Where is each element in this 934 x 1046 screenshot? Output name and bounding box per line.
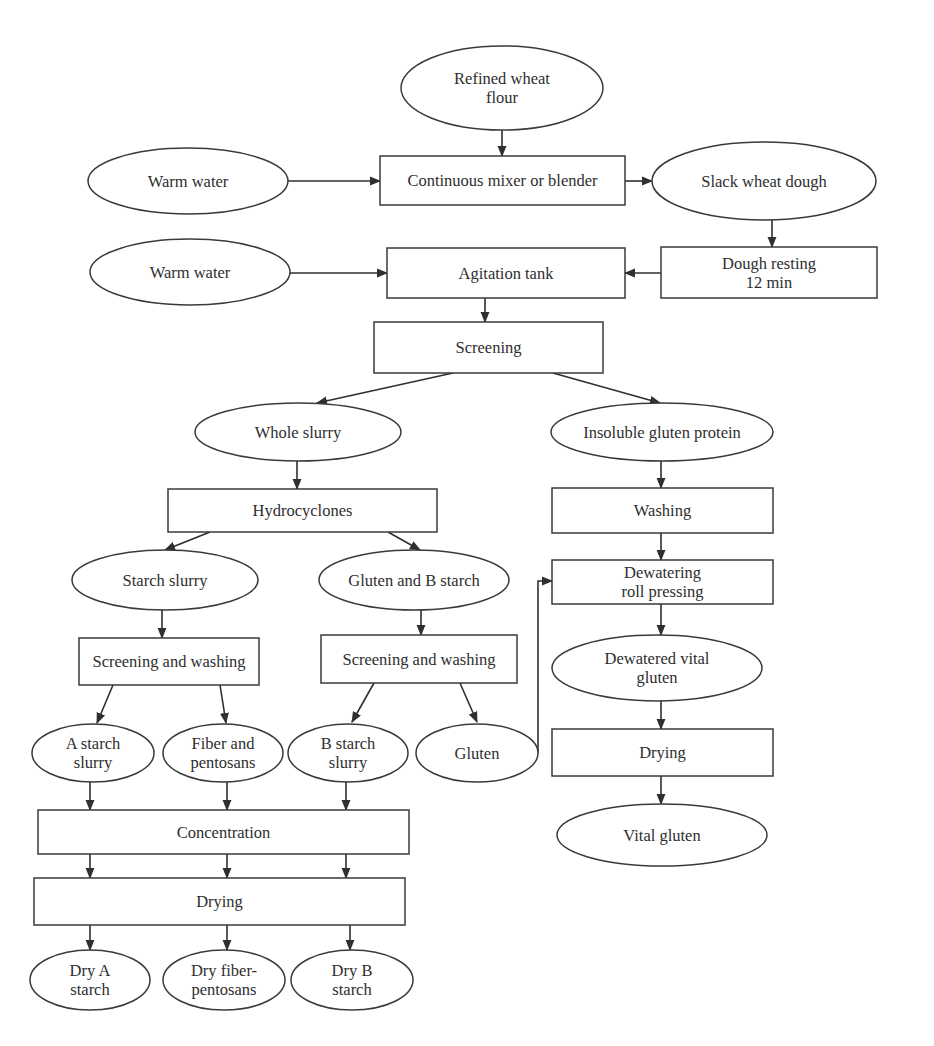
- arrow-sw-right-to-b-starch-slurry: [352, 683, 374, 722]
- node-label: pentosans: [191, 980, 256, 999]
- node-label: B starch: [321, 734, 376, 753]
- node-label: flour: [486, 88, 519, 107]
- node-label: gluten: [636, 668, 677, 687]
- node-label: Refined wheat: [454, 69, 550, 88]
- node-label: Whole slurry: [255, 423, 342, 442]
- node-label: Agitation tank: [459, 264, 555, 283]
- node-label: Washing: [634, 501, 691, 520]
- node-mixer: Continuous mixer or blender: [380, 156, 625, 205]
- arrow-hydrocyclones-to-starch-slurry: [165, 532, 210, 550]
- node-gluten: Gluten: [416, 724, 538, 782]
- node-label: Starch slurry: [123, 571, 209, 590]
- node-sw-left: Screening and washing: [79, 638, 259, 685]
- node-label: Drying: [639, 743, 686, 762]
- node-label: Dewatered vital: [605, 649, 710, 668]
- node-label: roll pressing: [621, 582, 703, 601]
- arrow-sw-left-to-fiber-pentosans: [220, 685, 226, 723]
- node-label: Dewatering: [624, 563, 701, 582]
- node-label: Dry B: [332, 961, 373, 980]
- node-insoluble-gluten: Insoluble gluten protein: [551, 403, 773, 461]
- node-label: Gluten and B starch: [348, 571, 480, 590]
- node-dry-fiber-pentosans: Dry fiber-pentosans: [163, 950, 285, 1010]
- node-label: starch: [332, 980, 372, 999]
- process-flowchart: Refined wheatflourWarm waterContinuous m…: [0, 0, 934, 1046]
- node-label: Drying: [196, 892, 243, 911]
- node-warm-water-2: Warm water: [90, 239, 290, 305]
- node-drying-left: Drying: [34, 878, 405, 925]
- node-label: Hydrocyclones: [253, 501, 353, 520]
- node-refined-flour: Refined wheatflour: [401, 46, 603, 130]
- node-label: pentosans: [190, 753, 255, 772]
- node-label: slurry: [74, 753, 113, 772]
- arrow-sw-right-to-gluten: [460, 683, 477, 722]
- node-starch-slurry: Starch slurry: [72, 550, 258, 610]
- node-label: Continuous mixer or blender: [407, 171, 598, 190]
- node-label: starch: [70, 980, 110, 999]
- node-label: Vital gluten: [623, 826, 700, 845]
- node-label: Slack wheat dough: [701, 172, 827, 191]
- arrow-sw-left-to-a-starch-slurry: [97, 685, 113, 723]
- node-label: 12 min: [746, 273, 792, 292]
- node-hydrocyclones: Hydrocyclones: [168, 489, 437, 532]
- node-label: Dry A: [70, 961, 111, 980]
- node-label: Concentration: [177, 823, 270, 842]
- node-dough-resting: Dough resting12 min: [661, 247, 877, 298]
- node-label: Dry fiber-: [191, 961, 257, 980]
- node-label: slurry: [329, 753, 368, 772]
- node-warm-water-1: Warm water: [88, 148, 288, 214]
- arrow-screening-to-whole-slurry: [317, 373, 453, 403]
- node-label: Gluten: [455, 744, 500, 763]
- node-agitation-tank: Agitation tank: [387, 248, 625, 298]
- node-sw-right: Screening and washing: [321, 635, 517, 683]
- node-dry-b-starch: Dry Bstarch: [291, 950, 413, 1010]
- node-label: Dough resting: [722, 254, 816, 273]
- node-label: Screening and washing: [342, 650, 495, 669]
- node-label: Warm water: [150, 263, 231, 282]
- node-whole-slurry: Whole slurry: [195, 403, 401, 461]
- node-b-starch-slurry: B starchslurry: [288, 724, 408, 782]
- node-label: Fiber and: [192, 734, 256, 753]
- arrow-screening-to-insoluble-gluten: [553, 373, 660, 403]
- node-screening: Screening: [374, 322, 603, 373]
- node-dewatering: Dewateringroll pressing: [552, 560, 773, 604]
- node-label: Insoluble gluten protein: [583, 423, 741, 442]
- arrow-gluten-to-dewatering: [538, 581, 552, 753]
- node-label: Screening and washing: [92, 652, 245, 671]
- node-slack-dough: Slack wheat dough: [652, 142, 876, 220]
- node-label: Warm water: [148, 172, 229, 191]
- node-dry-a-starch: Dry Astarch: [30, 950, 150, 1010]
- node-label: Screening: [456, 338, 522, 357]
- node-layer: Refined wheatflourWarm waterContinuous m…: [30, 46, 877, 1010]
- node-dewatered-gluten: Dewatered vitalgluten: [552, 635, 762, 701]
- node-washing: Washing: [552, 488, 773, 533]
- node-concentration: Concentration: [38, 810, 409, 854]
- node-a-starch-slurry: A starchslurry: [32, 724, 154, 782]
- node-gluten-b-starch: Gluten and B starch: [319, 550, 509, 610]
- node-label: A starch: [66, 734, 121, 753]
- node-drying-right: Drying: [552, 729, 773, 776]
- arrow-hydrocyclones-to-gluten-b-starch: [388, 532, 420, 550]
- node-fiber-pentosans: Fiber andpentosans: [163, 724, 283, 782]
- node-vital-gluten: Vital gluten: [557, 804, 767, 866]
